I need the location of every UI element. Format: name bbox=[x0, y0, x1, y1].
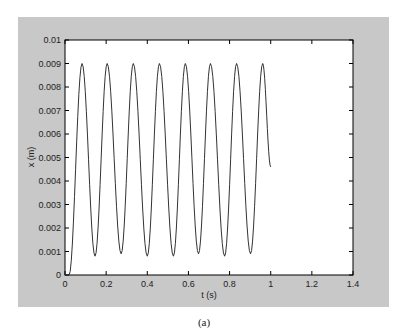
figure-panel: 00.20.40.60.811.21.4 00.0010.0020.0030.0… bbox=[18, 17, 389, 307]
y-tick-label: 0.004 bbox=[38, 176, 61, 186]
x-tick-label: 1.2 bbox=[306, 279, 319, 289]
y-tick-label: 0.002 bbox=[38, 223, 61, 233]
line-chart: 00.20.40.60.811.21.4 00.0010.0020.0030.0… bbox=[18, 17, 389, 307]
y-tick-label: 0.003 bbox=[38, 200, 61, 210]
y-tick-label: 0.008 bbox=[38, 82, 61, 92]
x-tick-label: 1.4 bbox=[347, 279, 360, 289]
x-tick-label: 1 bbox=[268, 279, 273, 289]
y-tick-label: 0.009 bbox=[38, 59, 61, 69]
y-tick-label: 0.005 bbox=[38, 153, 61, 163]
x-axis-label: t (s) bbox=[201, 290, 217, 300]
y-tick-label: 0.01 bbox=[43, 35, 61, 45]
x-tick-label: 0 bbox=[62, 279, 67, 289]
x-tick-label: 0.8 bbox=[223, 279, 236, 289]
y-axis-label: x (m) bbox=[26, 147, 36, 168]
y-tick-label: 0.001 bbox=[38, 247, 61, 257]
figure-caption: (a) bbox=[0, 316, 408, 328]
x-tick-label: 0.4 bbox=[141, 279, 154, 289]
y-tick-label: 0 bbox=[56, 270, 61, 280]
y-tick-label: 0.006 bbox=[38, 129, 61, 139]
x-tick-label: 0.2 bbox=[100, 279, 113, 289]
x-tick-label: 0.6 bbox=[182, 279, 195, 289]
y-tick-label: 0.007 bbox=[38, 106, 61, 116]
